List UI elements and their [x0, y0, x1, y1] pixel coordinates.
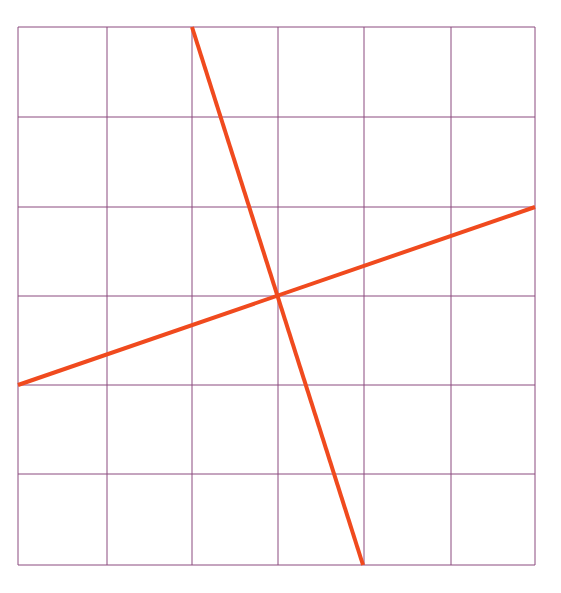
perpendicular-lines-diagram [0, 0, 561, 593]
